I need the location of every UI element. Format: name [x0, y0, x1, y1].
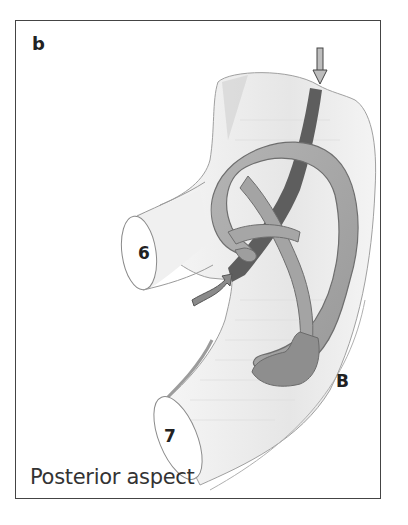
down-arrow-icon [313, 48, 327, 84]
segment-6-label: 6 [138, 245, 150, 262]
segment-6-opening [117, 182, 213, 292]
figure-caption: Posterior aspect [30, 465, 195, 489]
panel-letter: b [32, 35, 45, 53]
anatomy-illustration [0, 0, 408, 525]
region-b-label: B [336, 373, 349, 390]
segment-7-label: 7 [164, 428, 176, 445]
curved-arrow-icon [192, 274, 232, 306]
